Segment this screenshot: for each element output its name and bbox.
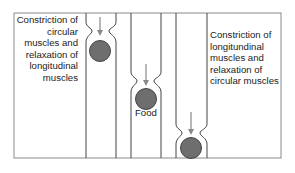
arrow-icon	[143, 64, 149, 86]
label-circular-constriction: Constriction of circular muscles and rel…	[14, 14, 78, 84]
food-bolus-3	[181, 138, 202, 159]
arrow-icon	[97, 17, 103, 36]
food-bolus-1	[90, 41, 111, 62]
tube-stage-3	[176, 13, 207, 158]
tube-stage-1	[86, 13, 116, 158]
arrow-icon	[188, 112, 194, 135]
label-longitudinal-constriction: Constriction of longitundinal muscles an…	[210, 29, 290, 87]
label-food: Food	[135, 107, 157, 118]
